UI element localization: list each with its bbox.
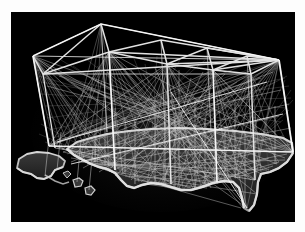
plot-frame bbox=[11, 12, 295, 222]
figure-container: 3D network arc visualization over United… bbox=[0, 0, 305, 232]
network-arcs-svg bbox=[11, 12, 295, 222]
scene-3d bbox=[11, 12, 295, 222]
